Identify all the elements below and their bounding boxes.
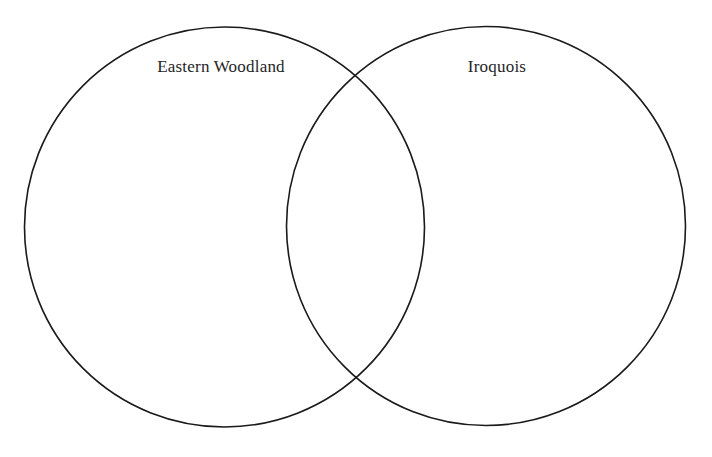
set-label-eastern-woodland: Eastern Woodland: [157, 57, 285, 77]
set-label-iroquois: Iroquois: [468, 57, 526, 77]
region-overlap[interactable]: [295, 110, 415, 360]
region-iroquois-only[interactable]: [430, 100, 670, 380]
venn-diagram: Eastern Woodland Iroquois: [0, 0, 712, 457]
region-eastern-woodland-only[interactable]: [40, 100, 280, 380]
